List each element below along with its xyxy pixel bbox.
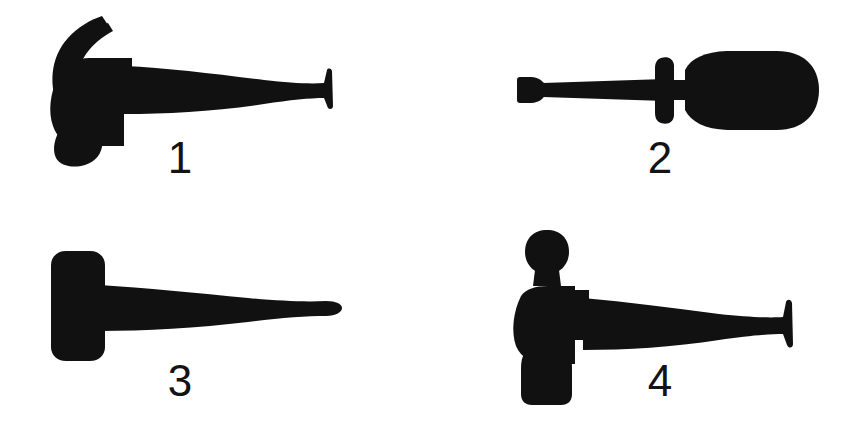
tool-item-2: 2 <box>420 0 841 211</box>
tool-label-4: 4 <box>620 359 700 403</box>
tool-item-4: 4 <box>420 211 841 423</box>
tool-item-1: 1 <box>0 0 420 211</box>
tool-label-3: 3 <box>140 359 220 403</box>
tool-silhouette-figure: 1 2 3 <box>0 0 841 423</box>
tool-label-1: 1 <box>140 136 220 180</box>
tool-item-3: 3 <box>0 211 420 423</box>
tool-label-2: 2 <box>620 136 700 180</box>
club-hammer-icon <box>48 249 358 364</box>
